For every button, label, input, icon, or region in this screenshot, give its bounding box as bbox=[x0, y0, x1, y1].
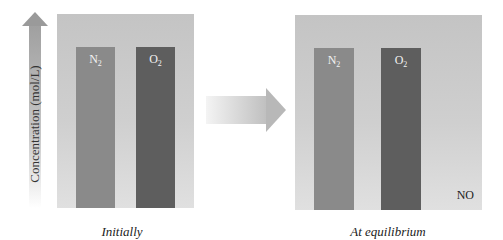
axis-label: Concentration (mol/L) bbox=[27, 65, 43, 182]
label-no: NO bbox=[457, 188, 474, 203]
up-arrow-icon bbox=[22, 12, 48, 26]
arrow-body bbox=[206, 96, 266, 124]
bar-label-n2: N2 bbox=[314, 53, 354, 69]
panel-equilibrium: N2 O2 NO bbox=[295, 15, 482, 210]
bar-label-o2: O2 bbox=[136, 52, 175, 68]
bar-o2-equilibrium: O2 bbox=[381, 48, 421, 210]
bar-n2-initial: N2 bbox=[76, 47, 115, 208]
bar-o2-initial: O2 bbox=[136, 47, 175, 208]
right-arrow-icon bbox=[206, 88, 286, 132]
caption-at-equilibrium: At equilibrium bbox=[350, 224, 425, 240]
arrow-tip bbox=[266, 88, 286, 132]
bar-n2-equilibrium: N2 bbox=[314, 48, 354, 210]
panel-initial: N2 O2 bbox=[57, 14, 194, 208]
caption-initially: Initially bbox=[101, 224, 142, 240]
bar-label-n2: N2 bbox=[76, 52, 115, 68]
bar-label-o2: O2 bbox=[381, 53, 421, 69]
concentration-axis: Concentration (mol/L) bbox=[22, 12, 48, 208]
